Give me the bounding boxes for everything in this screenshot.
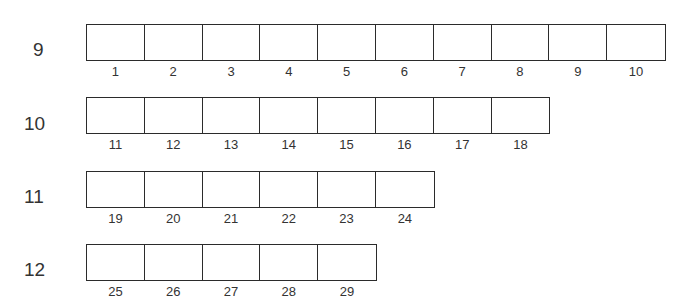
cell-number: 2 <box>145 64 202 79</box>
cell-number: 16 <box>376 137 433 152</box>
row-label: 11 <box>24 186 64 208</box>
cell-number: 24 <box>376 211 434 226</box>
cell-number: 22 <box>260 211 317 226</box>
cell-box: 29 <box>318 245 376 280</box>
row-label: 12 <box>24 259 64 281</box>
cell-number: 26 <box>145 284 202 299</box>
cell-number: 1 <box>87 64 144 79</box>
cell-number: 11 <box>87 137 144 152</box>
cell-number: 23 <box>318 211 375 226</box>
cell-box: 16 <box>376 98 434 133</box>
cell-box: 21 <box>203 172 261 207</box>
cell-number: 25 <box>87 284 144 299</box>
cell-box: 7 <box>434 25 492 60</box>
cell-number: 21 <box>203 211 260 226</box>
cell-box: 24 <box>376 172 434 207</box>
cell-box: 9 <box>549 25 607 60</box>
cell-number: 14 <box>260 137 317 152</box>
cell-box: 20 <box>145 172 203 207</box>
cell-number: 12 <box>145 137 202 152</box>
cell-strip: 1112131415161718 <box>86 97 550 134</box>
cell-number: 3 <box>203 64 260 79</box>
cell-number: 28 <box>260 284 317 299</box>
cell-number: 5 <box>318 64 375 79</box>
cell-number: 18 <box>492 137 550 152</box>
cell-box: 14 <box>260 98 318 133</box>
cell-box: 2 <box>145 25 203 60</box>
cell-box: 8 <box>492 25 550 60</box>
cell-number: 9 <box>549 64 606 79</box>
cell-box: 27 <box>203 245 261 280</box>
cell-box: 19 <box>87 172 145 207</box>
cell-box: 4 <box>260 25 318 60</box>
cell-box: 18 <box>492 98 550 133</box>
cell-number: 19 <box>87 211 144 226</box>
cell-number: 13 <box>203 137 260 152</box>
cell-number: 4 <box>260 64 317 79</box>
cell-box: 22 <box>260 172 318 207</box>
cell-box: 26 <box>145 245 203 280</box>
cell-box: 11 <box>87 98 145 133</box>
cell-number: 15 <box>318 137 375 152</box>
cell-number: 17 <box>434 137 491 152</box>
row-label: 10 <box>24 113 64 135</box>
cell-box: 1 <box>87 25 145 60</box>
cell-box: 23 <box>318 172 376 207</box>
cell-strip: 192021222324 <box>86 171 435 208</box>
cell-box: 5 <box>318 25 376 60</box>
cell-box: 6 <box>376 25 434 60</box>
cell-box: 10 <box>607 25 665 60</box>
cell-box: 12 <box>145 98 203 133</box>
cell-number: 20 <box>145 211 202 226</box>
row-label: 9 <box>33 39 73 61</box>
cell-box: 13 <box>203 98 261 133</box>
cell-number: 8 <box>492 64 549 79</box>
cell-number: 27 <box>203 284 260 299</box>
cell-strip: 2526272829 <box>86 244 377 281</box>
cell-box: 25 <box>87 245 145 280</box>
cell-number: 7 <box>434 64 491 79</box>
cell-strip: 12345678910 <box>86 24 666 61</box>
cell-box: 3 <box>203 25 261 60</box>
cell-box: 28 <box>260 245 318 280</box>
cell-box: 15 <box>318 98 376 133</box>
cell-number: 6 <box>376 64 433 79</box>
cell-box: 17 <box>434 98 492 133</box>
cell-number: 10 <box>607 64 665 79</box>
cell-number: 29 <box>318 284 376 299</box>
